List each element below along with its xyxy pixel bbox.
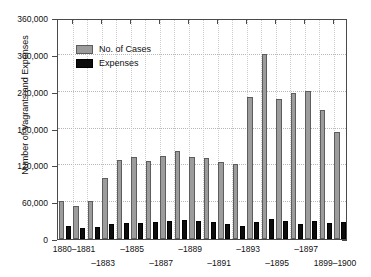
y-axis-tick-label: 60,000 xyxy=(22,199,48,208)
bar-no-of-cases xyxy=(276,99,281,239)
x-axis-tick-top xyxy=(275,19,276,24)
x-axis-tick-top xyxy=(130,19,131,24)
x-axis-tick-top xyxy=(101,19,102,24)
bar-group xyxy=(290,19,305,239)
bar-no-of-cases xyxy=(262,54,267,239)
bar-expenses xyxy=(312,221,317,239)
x-axis-tick-top xyxy=(188,19,189,24)
bar-no-of-cases xyxy=(102,178,107,239)
bar-expenses xyxy=(109,224,114,239)
x-axis-tick-top xyxy=(333,19,334,24)
bar-no-of-cases xyxy=(247,97,252,239)
x-axis-tick-top xyxy=(72,19,73,24)
bar-no-of-cases xyxy=(160,156,165,239)
bar-expenses xyxy=(283,221,288,239)
bar-expenses xyxy=(138,223,143,239)
bar-group xyxy=(319,19,334,239)
bar-group xyxy=(189,19,204,239)
bar-no-of-cases xyxy=(305,91,310,239)
bar-no-of-cases xyxy=(146,161,151,239)
x-axis-tick-top xyxy=(217,19,218,24)
legend-swatch-expenses xyxy=(76,59,93,68)
bar-expenses xyxy=(240,226,245,239)
bar-no-of-cases xyxy=(218,162,223,239)
y-axis-tick-label: 180,000 xyxy=(17,126,48,135)
bar-expenses xyxy=(225,224,230,239)
bar-expenses xyxy=(341,222,346,239)
bar-expenses xyxy=(269,219,274,239)
bar-no-of-cases xyxy=(291,93,296,239)
y-axis-tick-label: 240,000 xyxy=(17,89,48,98)
x-axis-tick-label: –1887 xyxy=(149,259,173,268)
bar-group xyxy=(305,19,320,239)
bar-expenses xyxy=(95,227,100,239)
bar-expenses xyxy=(153,222,158,239)
x-axis-tick-top xyxy=(159,19,160,24)
bar-no-of-cases xyxy=(320,110,325,239)
bar-expenses xyxy=(327,223,332,239)
bar-no-of-cases xyxy=(175,151,180,239)
chart-legend: No. of CasesExpenses xyxy=(76,44,151,72)
x-axis-tick-top xyxy=(246,19,247,24)
bar-no-of-cases xyxy=(189,157,194,239)
bar-no-of-cases xyxy=(233,164,238,239)
bar-group xyxy=(247,19,262,239)
bar-no-of-cases xyxy=(117,160,122,239)
bar-group xyxy=(276,19,291,239)
bar-group xyxy=(232,19,247,239)
x-axis-tick-label: –1883 xyxy=(91,259,115,268)
bar-group xyxy=(334,19,348,239)
bar-no-of-cases xyxy=(88,201,93,239)
bar-expenses xyxy=(254,222,259,239)
bar-group xyxy=(58,19,73,239)
legend-label: No. of Cases xyxy=(99,45,151,54)
bar-group xyxy=(203,19,218,239)
bar-group xyxy=(218,19,233,239)
bar-no-of-cases xyxy=(204,158,209,239)
legend-item: Expenses xyxy=(76,58,151,69)
bar-no-of-cases xyxy=(334,132,339,239)
x-axis-tick-label: –1897 xyxy=(294,245,318,254)
x-axis-tick-top xyxy=(304,19,305,24)
vagrants-bar-chart: Number of Vagrants and Expenses 060,0001… xyxy=(0,0,371,277)
bar-expenses xyxy=(80,228,85,239)
bar-expenses xyxy=(211,222,216,239)
x-axis-tick-label: 1880–1881 xyxy=(53,245,96,254)
x-axis-tick-label: –1885 xyxy=(120,245,144,254)
legend-swatch-no-of-cases xyxy=(76,45,93,54)
bar-no-of-cases xyxy=(59,201,64,239)
bar-group xyxy=(174,19,189,239)
bar-expenses xyxy=(124,223,129,239)
bar-expenses xyxy=(196,221,201,239)
x-axis-tick-label: –1889 xyxy=(178,245,202,254)
y-axis-title: Number of Vagrants and Expenses xyxy=(20,10,30,200)
x-axis-tick-label: –1891 xyxy=(207,259,231,268)
x-axis-tick-label: –1893 xyxy=(236,245,260,254)
bar-expenses xyxy=(167,221,172,239)
y-axis-tick-label: 0 xyxy=(43,236,48,245)
bar-group xyxy=(261,19,276,239)
bar-expenses xyxy=(66,226,71,239)
y-axis-tick-label: 360,000 xyxy=(17,15,48,24)
x-axis-tick-label: –1895 xyxy=(265,259,289,268)
y-axis-tick-label: 300,000 xyxy=(17,52,48,61)
legend-item: No. of Cases xyxy=(76,44,151,55)
bar-expenses xyxy=(182,220,187,239)
bar-expenses xyxy=(298,224,303,239)
y-axis-tick-label: 120,000 xyxy=(17,162,48,171)
bar-group xyxy=(160,19,175,239)
y-axis-tick-right xyxy=(342,240,347,241)
legend-label: Expenses xyxy=(99,59,139,68)
bar-no-of-cases xyxy=(131,157,136,239)
y-axis-tick xyxy=(52,240,57,241)
x-axis-tick-label: 1899–1900 xyxy=(314,259,357,268)
bar-no-of-cases xyxy=(73,206,78,239)
